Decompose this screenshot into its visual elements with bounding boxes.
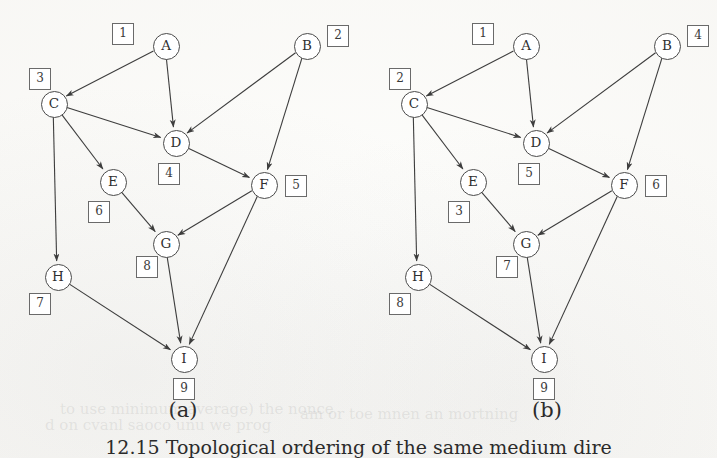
- figure-panel-a: (a) ABCDEFGHI123456789: [0, 0, 360, 420]
- order-badge-A: 1: [112, 23, 134, 45]
- figure-panel-b: (b) ABCDEFGHI123456789: [360, 0, 717, 420]
- graph-node-B[interactable]: B: [294, 33, 321, 60]
- order-badge-C: 3: [29, 68, 51, 90]
- graph-node-F[interactable]: F: [251, 172, 278, 199]
- order-badge-G: 8: [136, 256, 158, 278]
- edge-C-D: [65, 107, 160, 137]
- edge-C-E: [61, 113, 103, 169]
- edge-F-G: [178, 191, 252, 236]
- graph-node-A[interactable]: A: [153, 33, 180, 60]
- panel-caption-b: (b): [507, 398, 587, 422]
- edge-C-E: [421, 113, 463, 169]
- order-badge-C: 2: [389, 68, 411, 90]
- order-badge-A: 1: [472, 23, 494, 45]
- order-badge-F: 5: [285, 175, 307, 197]
- edge-A-D: [526, 58, 533, 127]
- edge-C-H: [413, 116, 416, 261]
- edge-B-D: [187, 53, 295, 133]
- edge-A-C: [66, 51, 153, 96]
- order-badge-E: 6: [88, 201, 110, 223]
- graph-node-D[interactable]: D: [163, 130, 190, 157]
- panel-caption-a: (a): [143, 398, 223, 422]
- graph-node-C[interactable]: C: [401, 91, 428, 118]
- graph-node-B[interactable]: B: [654, 33, 681, 60]
- order-badge-I: 9: [173, 378, 195, 400]
- graph-node-H[interactable]: H: [45, 264, 72, 291]
- edge-G-I: [167, 256, 181, 343]
- edge-H-I: [428, 283, 531, 350]
- edge-D-F: [547, 148, 610, 178]
- order-badge-E: 3: [448, 201, 470, 223]
- order-badge-D: 4: [158, 163, 180, 185]
- edge-H-I: [68, 283, 171, 350]
- order-badge-I: 9: [533, 378, 555, 400]
- graph-node-F[interactable]: F: [611, 172, 638, 199]
- edge-C-H: [53, 116, 56, 261]
- order-badge-B: 2: [327, 25, 349, 47]
- order-badge-H: 8: [389, 293, 411, 315]
- graph-node-A[interactable]: A: [513, 33, 540, 60]
- figure-caption: 12.15 Topological ordering of the same m…: [0, 436, 717, 458]
- edge-D-F: [187, 148, 250, 178]
- graph-node-C[interactable]: C: [41, 91, 68, 118]
- edge-A-D: [166, 58, 173, 127]
- order-badge-D: 5: [518, 163, 540, 185]
- graph-node-E[interactable]: E: [100, 169, 127, 196]
- edge-A-C: [426, 51, 513, 96]
- order-badge-B: 4: [687, 25, 709, 47]
- edge-C-D: [425, 107, 520, 137]
- edge-G-I: [527, 256, 541, 343]
- graph-node-I[interactable]: I: [531, 346, 558, 373]
- edge-F-G: [538, 191, 612, 236]
- edge-F-I: [189, 196, 257, 345]
- order-badge-H: 7: [29, 293, 51, 315]
- edge-E-G: [480, 191, 515, 232]
- graph-node-H[interactable]: H: [405, 264, 432, 291]
- graph-node-D[interactable]: D: [523, 130, 550, 157]
- graph-node-G[interactable]: G: [153, 231, 180, 258]
- edge-F-I: [549, 196, 617, 345]
- graph-node-G[interactable]: G: [513, 231, 540, 258]
- graph-node-I[interactable]: I: [171, 346, 198, 373]
- edge-B-F: [627, 57, 662, 169]
- graph-node-E[interactable]: E: [460, 169, 487, 196]
- order-badge-F: 6: [645, 175, 667, 197]
- edge-B-F: [267, 57, 302, 169]
- order-badge-G: 7: [496, 256, 518, 278]
- edge-B-D: [547, 53, 655, 133]
- edge-E-G: [120, 191, 155, 232]
